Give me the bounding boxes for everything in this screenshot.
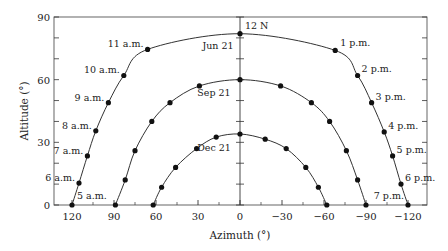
- data-point: [123, 177, 128, 182]
- x-tick-label: 60: [150, 211, 163, 222]
- hour-label: 6 p.m.: [405, 172, 435, 183]
- data-point: [167, 100, 172, 105]
- data-point: [132, 148, 137, 153]
- data-point: [333, 48, 338, 53]
- x-tick-label: 120: [62, 211, 81, 222]
- x-tick-label: −120: [394, 211, 421, 222]
- data-point: [159, 185, 164, 190]
- hour-label: 8 a.m.: [62, 120, 92, 131]
- hour-label: 6 a.m.: [45, 172, 75, 183]
- data-point: [69, 202, 74, 207]
- data-point: [151, 202, 156, 207]
- data-point: [76, 180, 81, 185]
- hour-label: 2 p.m.: [362, 63, 392, 74]
- data-point: [113, 202, 118, 207]
- hour-label: 12 N: [245, 20, 268, 31]
- data-point: [327, 119, 332, 124]
- series-label: Sep 21: [197, 87, 230, 98]
- y-tick-label: 30: [37, 137, 50, 148]
- data-point: [237, 31, 242, 36]
- data-point: [405, 202, 410, 207]
- x-tick-label: 0: [237, 211, 243, 222]
- data-point: [237, 131, 242, 136]
- hour-label: 5 a.m.: [77, 190, 107, 201]
- hour-label: 7 a.m.: [54, 145, 84, 156]
- data-point: [85, 153, 90, 158]
- x-tick-label: −60: [313, 211, 334, 222]
- hour-label: 9 a.m.: [75, 92, 105, 103]
- x-axis-title: Azimuth (°): [209, 229, 271, 241]
- x-tick-label: 30: [192, 211, 205, 222]
- data-point: [106, 100, 111, 105]
- data-point: [324, 202, 329, 207]
- hour-label: 7 p.m.: [374, 190, 404, 201]
- data-point: [214, 135, 219, 140]
- hour-label: 5 p.m.: [397, 144, 427, 155]
- y-tick-label: 0: [44, 200, 50, 211]
- data-point: [278, 83, 283, 88]
- data-point: [303, 165, 308, 170]
- hour-label: 4 p.m.: [388, 120, 418, 131]
- x-tick-label: −30: [271, 211, 292, 222]
- hour-label: 10 a.m.: [84, 64, 120, 75]
- data-point: [173, 165, 178, 170]
- hour-label: 11 a.m.: [108, 38, 144, 49]
- y-axis-title: Altitude (°): [18, 81, 30, 141]
- x-tick-label: −90: [355, 211, 376, 222]
- data-point: [382, 129, 387, 134]
- data-point: [344, 148, 349, 153]
- data-point: [121, 73, 126, 78]
- data-point: [398, 182, 403, 187]
- data-point: [149, 119, 154, 124]
- data-point: [390, 153, 395, 158]
- series-label: Jun 21: [201, 40, 233, 51]
- hour-label: 3 p.m.: [376, 91, 406, 102]
- y-tick-label: 90: [37, 12, 50, 23]
- x-tick-label: 90: [108, 211, 121, 222]
- data-point: [355, 73, 360, 78]
- data-point: [369, 100, 374, 105]
- data-point: [263, 137, 268, 142]
- y-tick-label: 60: [37, 75, 50, 86]
- hour-label: 1 p.m.: [340, 37, 370, 48]
- series-label: Dec 21: [197, 142, 231, 153]
- data-point: [309, 100, 314, 105]
- data-point: [363, 202, 368, 207]
- data-point: [93, 128, 98, 133]
- data-point: [355, 177, 360, 182]
- data-point: [284, 146, 289, 151]
- data-point: [316, 185, 321, 190]
- sun-path-chart: 1209060300−30−60−90−120 0306090 Jun 215 …: [0, 0, 448, 251]
- data-point: [145, 47, 150, 52]
- data-point: [237, 77, 242, 82]
